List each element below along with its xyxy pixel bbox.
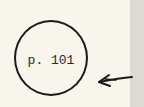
scanned-page: p. 101 <box>0 0 144 107</box>
left-arrow-icon <box>96 72 134 88</box>
page-reference-label: p. 101 <box>25 53 77 69</box>
page-margin-strip <box>130 0 144 107</box>
